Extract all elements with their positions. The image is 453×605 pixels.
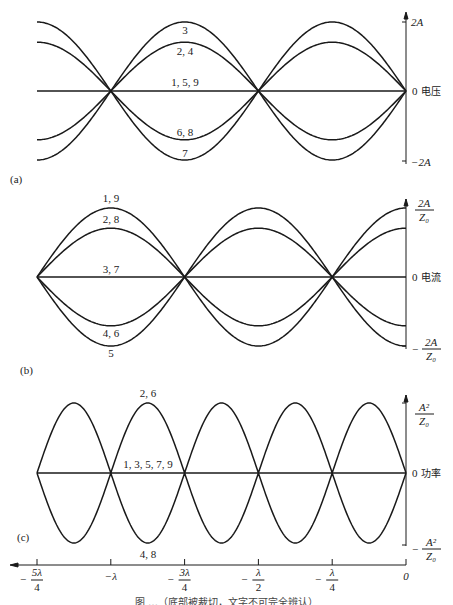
curve-label-c-1: 1, 3, 5, 7, 9 <box>123 458 173 470</box>
tick-label-b-zero: 0 <box>412 271 418 283</box>
x-tick-label-num-3: λ <box>255 566 261 578</box>
x-tick-label-den-4: 4 <box>329 581 335 593</box>
tick-label-a-zero: 0 <box>412 85 418 97</box>
curve-a-3 <box>37 91 406 140</box>
x-tick-label-sign-2: − <box>167 573 173 585</box>
curve-label-b-0: 1, 9 <box>103 192 120 204</box>
x-tick-label-den-2: 4 <box>182 581 188 593</box>
tick-label-a-bottom: −2A <box>411 156 431 168</box>
curve-label-c-0: 2, 6 <box>140 387 157 399</box>
x-tick-label-den-0: 4 <box>34 581 40 593</box>
tick-label-b-top-num: 2A <box>418 197 431 209</box>
axis-title-c: 功率 <box>421 467 441 479</box>
panel-label-a: (a) <box>10 173 23 186</box>
labels-layer: 2A0电压−2A(a)32, 41, 5, 96, 872AZ₀0电流−2AZ₀… <box>10 16 441 593</box>
x-tick-label-den-3: 2 <box>256 581 262 593</box>
curve-a-1 <box>37 42 406 91</box>
arrow-up-icon <box>404 395 408 402</box>
curve-label-a-3: 6, 8 <box>177 126 194 138</box>
x-tick-label-sign-4: − <box>315 573 321 585</box>
tick-label-b-bottom-num: 2A <box>425 336 438 348</box>
curve-b-1 <box>37 228 406 277</box>
curve-label-a-2: 1, 5, 9 <box>171 76 199 88</box>
x-tick-label-sign-0: − <box>20 573 26 585</box>
x-tick-label-5: 0 <box>403 570 409 582</box>
curve-label-b-2: 3, 7 <box>103 263 120 275</box>
tick-label-c-top-num: A² <box>418 401 430 413</box>
tick-label-b-bottom-sign: − <box>412 343 418 355</box>
tick-label-c-bottom-num: A² <box>425 536 437 548</box>
panel-label-c: (c) <box>17 531 30 544</box>
tick-label-b-bottom-den: Z₀ <box>426 350 436 362</box>
curve-label-b-4: 5 <box>108 347 114 359</box>
curve-label-b-1: 2, 8 <box>103 213 120 225</box>
curve-label-a-0: 3 <box>182 24 188 36</box>
curve-label-b-3: 4, 6 <box>103 327 120 339</box>
curve-c-2 <box>37 473 406 543</box>
axis-title-b: 电流 <box>421 271 441 283</box>
curve-label-c-2: 4, 8 <box>140 548 157 560</box>
axes-layer <box>10 12 441 580</box>
x-tick-label-sign-3: − <box>241 573 247 585</box>
arrow-left-icon <box>10 563 18 567</box>
axis-title-a: 电压 <box>421 85 441 97</box>
arrow-up-icon <box>404 199 408 206</box>
tick-label-a-top: 2A <box>411 16 424 28</box>
curve-label-a-4: 7 <box>182 147 188 159</box>
x-tick-label-num-0: 5λ <box>32 566 43 578</box>
standing-wave-figure: 2A0电压−2A(a)32, 41, 5, 96, 872AZ₀0电流−2AZ₀… <box>0 0 453 605</box>
tick-label-b-top-den: Z₀ <box>419 211 429 223</box>
panel-label-b: (b) <box>20 364 33 377</box>
curve-b-3 <box>37 277 406 326</box>
figure-caption: 图 …（底部被裁切，文字不可完全辨认） <box>0 594 453 605</box>
x-tick-label-num-2: 3λ <box>178 566 190 578</box>
tick-label-c-zero: 0 <box>412 467 418 479</box>
arrow-up-icon <box>404 12 408 19</box>
curves-layer <box>37 22 406 543</box>
x-tick-label-1: −λ <box>105 570 117 582</box>
tick-label-c-bottom-den: Z₀ <box>426 550 436 562</box>
tick-label-c-top-den: Z₀ <box>419 415 429 427</box>
curve-label-a-1: 2, 4 <box>177 45 194 57</box>
tick-label-c-bottom-sign: − <box>412 543 418 555</box>
curve-c-0 <box>37 403 406 473</box>
x-tick-label-num-4: λ <box>329 566 335 578</box>
